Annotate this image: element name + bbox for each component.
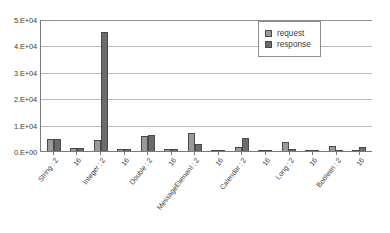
x-tick-mark	[289, 152, 290, 155]
y-axis: 0.E+00 1.E+04 2.E+04 3.E+04 4.E+04 5.E+0…	[0, 0, 40, 233]
bar-request	[164, 149, 171, 151]
x-tick-mark	[147, 152, 148, 155]
x-label-cell: 16	[112, 156, 136, 233]
bar-group	[42, 20, 66, 151]
legend-swatch-icon	[265, 30, 272, 37]
x-label-cell: Integer : 2	[88, 156, 112, 233]
bar-request	[282, 142, 289, 151]
legend-swatch-icon	[265, 41, 272, 48]
bar-request	[117, 149, 124, 151]
x-tick-label: 16	[213, 156, 225, 168]
x-label-cell: 16	[300, 156, 324, 233]
legend-label: response	[277, 40, 311, 49]
bar-response	[265, 150, 272, 151]
x-tick-mark	[336, 152, 337, 155]
bar-request	[188, 133, 195, 151]
x-label-cell: Boolean : 2	[324, 156, 348, 233]
x-tick-mark	[312, 152, 313, 155]
x-tick-mark	[76, 152, 77, 155]
bar-response	[359, 147, 366, 151]
bar-group	[207, 20, 231, 151]
bar-group	[230, 20, 254, 151]
bar-request	[94, 140, 101, 151]
bar-response	[312, 150, 319, 151]
x-tick-label: 16	[260, 156, 272, 168]
bar-group	[89, 20, 113, 151]
y-tick-label: 3.E+04	[14, 68, 37, 77]
bar-group	[183, 20, 207, 151]
legend-label: request	[277, 29, 304, 38]
x-tick-label: 16	[354, 156, 366, 168]
bar-response	[195, 144, 202, 151]
x-label-cell: 16	[253, 156, 277, 233]
bar-response	[54, 139, 61, 151]
x-label-cell: Double : 2	[135, 156, 159, 233]
x-label-cell: Calendar : 2	[230, 156, 254, 233]
bar-response	[242, 138, 249, 151]
bar-group	[348, 20, 372, 151]
x-tick-label: 16	[72, 156, 84, 168]
x-tick-mark	[53, 152, 54, 155]
x-tick-mark	[359, 152, 360, 155]
bar-request	[47, 139, 54, 151]
x-tick-mark	[100, 152, 101, 155]
bar-response	[336, 150, 343, 151]
bar-response	[77, 148, 84, 151]
legend: request response	[258, 21, 321, 57]
bar-request	[70, 148, 77, 151]
bar-group	[160, 20, 184, 151]
bar-response	[124, 149, 131, 151]
bars-layer	[41, 20, 372, 151]
bar-group	[113, 20, 137, 151]
bar-request	[329, 146, 336, 151]
bar-response	[148, 135, 155, 151]
y-tick-label: 2.E+04	[14, 95, 37, 104]
bar-request	[235, 147, 242, 151]
x-tick-mark	[194, 152, 195, 155]
legend-item-response[interactable]: response	[265, 40, 311, 49]
x-tick-label: String : 2	[36, 156, 60, 183]
x-tick-label: 16	[119, 156, 131, 168]
x-tick-label: 16	[166, 156, 178, 168]
bar-group	[136, 20, 160, 151]
y-tick-label: 0.E+00	[14, 148, 37, 157]
bar-group	[324, 20, 348, 151]
x-label-cell: 16	[65, 156, 89, 233]
bar-request	[258, 150, 265, 151]
bar-request	[305, 150, 312, 151]
plot-area	[40, 20, 372, 152]
x-tick-mark	[218, 152, 219, 155]
x-axis: String : 216Integer : 216Double : 216Mes…	[40, 156, 372, 233]
bar-request	[211, 150, 218, 151]
x-tick-label: Long : 2	[273, 156, 296, 181]
y-tick-label: 5.E+04	[14, 16, 37, 25]
x-label-cell: 16	[348, 156, 372, 233]
bar-response	[101, 32, 108, 151]
x-tick-mark	[171, 152, 172, 155]
x-label-cell: String : 2	[41, 156, 65, 233]
bar-request	[141, 136, 148, 151]
x-tick-label: 16	[307, 156, 319, 168]
bar-response	[289, 149, 296, 151]
bar-response	[171, 149, 178, 151]
bar-group	[66, 20, 90, 151]
bar-chart: 0.E+00 1.E+04 2.E+04 3.E+04 4.E+04 5.E+0…	[0, 0, 390, 233]
y-tick-label: 1.E+04	[14, 121, 37, 130]
x-label-cell: MessageElement : 2	[182, 156, 206, 233]
y-tick-label: 4.E+04	[14, 42, 37, 51]
bar-request	[352, 150, 359, 151]
x-tick-mark	[241, 152, 242, 155]
x-tick-mark	[265, 152, 266, 155]
x-label-cell: Long : 2	[277, 156, 301, 233]
bar-response	[218, 150, 225, 151]
legend-item-request[interactable]: request	[265, 29, 311, 38]
x-label-cell: 16	[206, 156, 230, 233]
